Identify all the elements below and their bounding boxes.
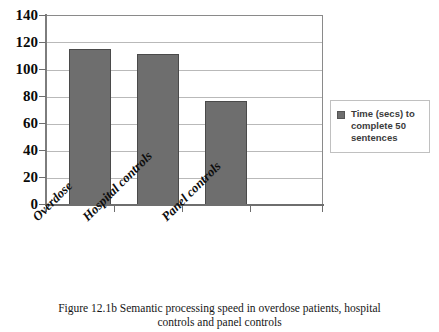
bar-hospital-controls xyxy=(137,54,179,205)
x-tick-mark-3 xyxy=(250,205,251,212)
y-tick-40: 40 xyxy=(0,143,38,158)
y-tick-label-60: 60 xyxy=(2,116,38,131)
y-tick-mark-100 xyxy=(39,69,46,70)
bar-overdose xyxy=(69,49,111,205)
chart-legend: Time (secs) to complete 50 sentences xyxy=(330,100,430,153)
y-tick-label-120: 120 xyxy=(2,35,38,50)
x-tick-mark-1 xyxy=(114,205,115,212)
bar-panel-controls xyxy=(205,101,247,206)
y-tick-mark-120 xyxy=(39,42,46,43)
y-tick-80: 80 xyxy=(0,89,38,104)
x-tick-mark-4 xyxy=(322,205,323,212)
y-tick-mark-40 xyxy=(39,150,46,151)
y-tick-mark-20 xyxy=(39,177,46,178)
legend-color-swatch xyxy=(337,111,345,119)
y-tick-mark-60 xyxy=(39,123,46,124)
y-tick-label-20: 20 xyxy=(2,170,38,185)
y-tick-60: 60 xyxy=(0,116,38,131)
y-tick-mark-80 xyxy=(39,96,46,97)
y-tick-label-40: 40 xyxy=(2,143,38,158)
y-tick-120: 120 xyxy=(0,35,38,50)
y-tick-20: 20 xyxy=(0,170,38,185)
legend-label-time-to-complete: Time (secs) to complete 50 sentences xyxy=(351,108,415,144)
figure-caption-line-2: controls and panel controls xyxy=(0,316,439,330)
y-tick-label-100: 100 xyxy=(2,62,38,77)
figure-container: 140 120 100 80 60 40 20 0 Overdose Hospi… xyxy=(0,0,439,332)
y-tick-label-80: 80 xyxy=(2,89,38,104)
gridline-120 xyxy=(47,42,322,43)
plot-area xyxy=(46,15,323,205)
figure-caption-line-1: Figure 12.1b Semantic processing speed i… xyxy=(58,302,381,314)
y-tick-mark-140 xyxy=(39,15,46,16)
figure-caption: Figure 12.1b Semantic processing speed i… xyxy=(0,302,439,329)
y-tick-140: 140 xyxy=(0,8,38,23)
y-tick-100: 100 xyxy=(0,62,38,77)
y-tick-label-140: 140 xyxy=(2,8,38,23)
